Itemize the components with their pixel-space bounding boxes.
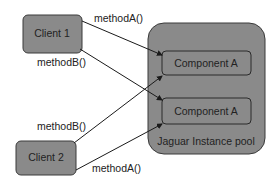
client-2: Client 2 [16,141,76,175]
pool-label: Jaguar Instance pool [157,135,254,147]
instance-pool: Jaguar Instance pool [148,23,265,154]
call-label: methodA() [92,162,141,174]
component-a-top: Component A [162,51,251,75]
call-label: methodB() [37,56,86,68]
component-label: Component A [174,57,238,69]
component-a-bottom: Component A [162,98,251,124]
client-label: Client 1 [34,27,70,39]
call-label: methodA() [94,12,143,24]
call-label: methodB() [37,120,86,132]
client-label: Client 2 [28,151,64,163]
client-1: Client 1 [23,15,82,53]
diagram-canvas: Jaguar Instance pool Component A Compone… [0,0,279,184]
component-label: Component A [174,105,238,117]
